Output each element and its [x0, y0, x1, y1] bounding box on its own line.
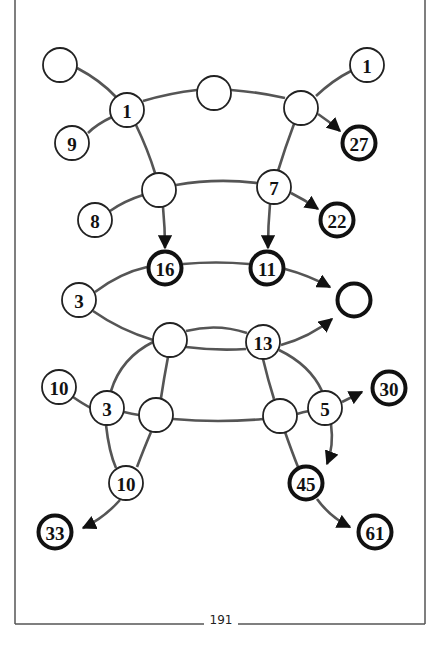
- edge-q-o: [281, 319, 332, 345]
- edge-i-k: [291, 193, 318, 209]
- edge-b-h: [136, 125, 155, 173]
- graph-node-27: 27: [343, 127, 376, 160]
- graph-node-22: 22: [321, 204, 354, 237]
- edges: [73, 68, 362, 528]
- node-label: 16: [156, 259, 175, 280]
- graph-node-empty: [197, 76, 231, 110]
- edge-q-v: [279, 350, 322, 391]
- edge-h-j: [110, 195, 143, 211]
- node-circle: [263, 399, 297, 433]
- edge-b-c: [143, 90, 197, 101]
- edge-e-f: [318, 114, 340, 131]
- graph-node-empty: [338, 284, 371, 317]
- node-circle: [43, 48, 77, 82]
- edge-q-u: [263, 359, 274, 399]
- node-label: 9: [67, 134, 77, 155]
- graph-node-empty: [284, 91, 318, 125]
- graph-node-10: 10: [109, 466, 143, 500]
- graph-node-empty: [263, 399, 297, 433]
- graph-node-30: 30: [373, 372, 406, 405]
- node-circle: [197, 76, 231, 110]
- edge-p-t: [161, 357, 168, 398]
- graph-node-13: 13: [246, 325, 280, 359]
- edge-y-aa: [317, 499, 350, 527]
- graph-node-9: 9: [55, 126, 89, 160]
- node-label: 3: [102, 399, 112, 420]
- edge-i-m: [268, 204, 270, 248]
- node-label: 22: [328, 211, 347, 232]
- edge-t-x: [137, 432, 151, 467]
- edge-c-e: [231, 90, 285, 98]
- node-label: 10: [117, 474, 136, 495]
- node-label: 1: [362, 56, 372, 77]
- graph-node-empty: [43, 48, 77, 82]
- node-circle: [338, 284, 371, 317]
- edge-s-x: [106, 425, 116, 468]
- graph-node-3: 3: [62, 283, 96, 317]
- graph-diagram: 112797822161131310353010453361: [0, 0, 442, 654]
- node-label: 61: [366, 523, 385, 544]
- graph-node-5: 5: [308, 391, 342, 425]
- edge-l-m: [183, 263, 249, 265]
- node-circle: [139, 398, 173, 432]
- node-label: 8: [90, 211, 100, 232]
- node-label: 33: [46, 523, 65, 544]
- graph-node-61: 61: [359, 516, 392, 549]
- graph-node-11: 11: [251, 252, 284, 285]
- node-circle: [284, 91, 318, 125]
- edge-a-b: [77, 68, 116, 97]
- edge-p-q-bottom: [186, 347, 246, 350]
- edge-v-w: [342, 392, 362, 402]
- node-label: 30: [380, 379, 399, 400]
- graph-node-33: 33: [39, 516, 72, 549]
- graph-node-1: 1: [110, 93, 144, 127]
- edge-h-l: [163, 207, 165, 248]
- edge-v-y: [327, 424, 332, 464]
- node-label: 3: [74, 291, 84, 312]
- edge-e-d: [316, 71, 351, 96]
- graph-node-empty: [153, 323, 187, 357]
- edge-t-u: [173, 419, 263, 421]
- node-circle: [142, 173, 176, 207]
- page-number-text: 191: [204, 613, 239, 627]
- edge-p-q-top: [186, 327, 247, 333]
- page-number: 191: [0, 613, 442, 627]
- node-label: 1: [122, 101, 132, 122]
- edge-r-s: [73, 397, 91, 408]
- edge-n-l: [95, 267, 147, 292]
- edge-x-z: [83, 500, 120, 528]
- node-label: 11: [258, 259, 276, 280]
- node-label: 10: [50, 378, 69, 399]
- edge-m-o: [285, 269, 330, 287]
- graph-node-16: 16: [149, 252, 182, 285]
- node-label: 5: [320, 399, 330, 420]
- edge-p-s: [111, 342, 153, 391]
- node-label: 27: [350, 134, 370, 155]
- graph-node-45: 45: [290, 467, 323, 500]
- node-label: 13: [254, 333, 273, 354]
- edge-b-g: [88, 117, 112, 133]
- graph-node-10: 10: [42, 370, 76, 404]
- edge-h-i: [176, 181, 257, 185]
- edge-e-i: [278, 124, 294, 171]
- edge-n-p: [93, 311, 153, 340]
- edge-u-y: [285, 432, 298, 467]
- edge-u-v: [297, 411, 309, 414]
- node-label: 7: [269, 178, 279, 199]
- graph-node-empty: [142, 173, 176, 207]
- graph-node-3: 3: [90, 391, 124, 425]
- node-label: 45: [297, 474, 316, 495]
- graph-node-1: 1: [350, 48, 384, 82]
- edge-s-t: [124, 412, 139, 415]
- graph-node-empty: [139, 398, 173, 432]
- node-circle: [153, 323, 187, 357]
- nodes: 112797822161131310353010453361: [39, 48, 406, 549]
- graph-node-8: 8: [78, 203, 112, 237]
- graph-node-7: 7: [257, 170, 291, 204]
